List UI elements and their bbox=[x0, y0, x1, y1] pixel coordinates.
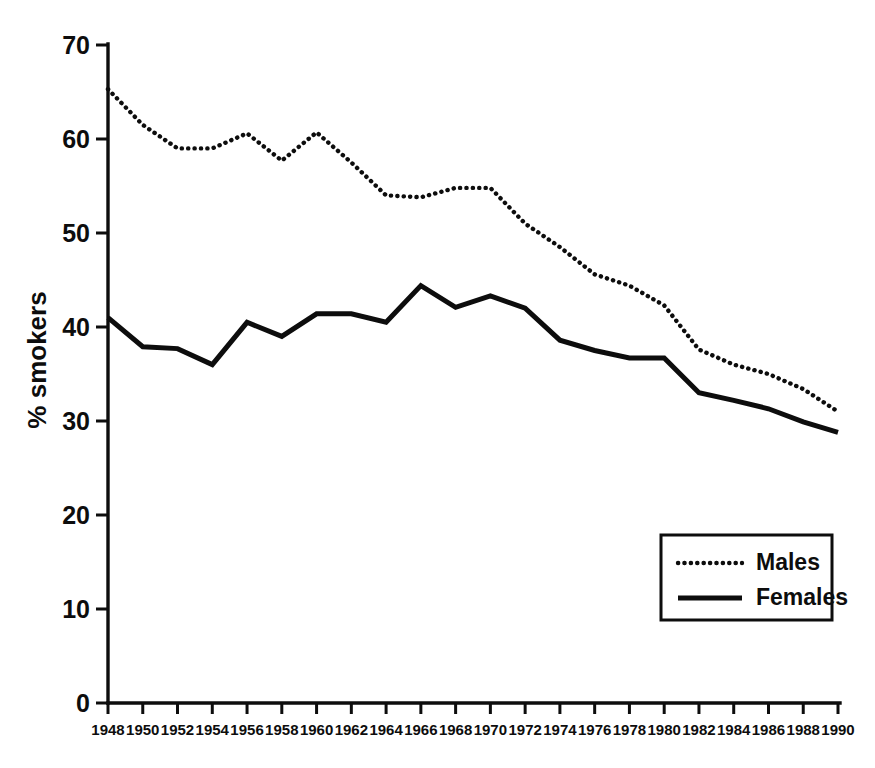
y-tick-label-70: 70 bbox=[62, 31, 90, 59]
series-line-males bbox=[108, 89, 838, 411]
y-tick-label-20: 20 bbox=[62, 501, 90, 529]
x-tick-label-1982: 1982 bbox=[682, 721, 715, 738]
x-tick-label-1976: 1976 bbox=[578, 721, 611, 738]
y-tick-label-0: 0 bbox=[76, 689, 90, 717]
series-line-females bbox=[108, 286, 838, 433]
x-tick-label-1980: 1980 bbox=[648, 721, 681, 738]
legend-label-females: Females bbox=[756, 584, 848, 610]
y-tick-label-10: 10 bbox=[62, 595, 90, 623]
x-tick-label-1972: 1972 bbox=[508, 721, 541, 738]
y-tick-label-40: 40 bbox=[62, 313, 90, 341]
y-axis-ticks: 0 10 20 30 40 50 60 70 bbox=[62, 31, 108, 717]
x-tick-label-1984: 1984 bbox=[717, 721, 751, 738]
x-tick-label-1968: 1968 bbox=[439, 721, 472, 738]
y-tick-label-50: 50 bbox=[62, 219, 90, 247]
x-tick-label-1954: 1954 bbox=[196, 721, 230, 738]
x-tick-label-1962: 1962 bbox=[335, 721, 368, 738]
x-tick-label-1952: 1952 bbox=[161, 721, 194, 738]
y-tick-label-30: 30 bbox=[62, 407, 90, 435]
x-tick-label-1960: 1960 bbox=[300, 721, 333, 738]
chart-canvas: 0 10 20 30 40 50 60 70 % smokers 1948195… bbox=[0, 0, 875, 768]
x-tick-label-1958: 1958 bbox=[265, 721, 298, 738]
x-tick-label-1956: 1956 bbox=[230, 721, 263, 738]
x-tick-label-1978: 1978 bbox=[613, 721, 646, 738]
series-layer bbox=[108, 89, 838, 432]
y-tick-label-60: 60 bbox=[62, 125, 90, 153]
x-tick-label-1964: 1964 bbox=[369, 721, 403, 738]
x-tick-label-1966: 1966 bbox=[404, 721, 437, 738]
x-axis-ticks: 1948195019521954195619581960196219641966… bbox=[91, 703, 854, 738]
x-tick-label-1948: 1948 bbox=[91, 721, 124, 738]
smoking-prevalence-line-chart: 0 10 20 30 40 50 60 70 % smokers 1948195… bbox=[0, 0, 875, 768]
x-tick-label-1974: 1974 bbox=[543, 721, 577, 738]
legend-label-males: Males bbox=[756, 549, 820, 575]
x-tick-label-1988: 1988 bbox=[787, 721, 820, 738]
x-tick-label-1970: 1970 bbox=[474, 721, 507, 738]
x-tick-label-1990: 1990 bbox=[821, 721, 854, 738]
y-axis-title: % smokers bbox=[22, 291, 52, 428]
legend: Males Females bbox=[661, 535, 848, 620]
x-tick-label-1986: 1986 bbox=[752, 721, 785, 738]
x-tick-label-1950: 1950 bbox=[126, 721, 159, 738]
